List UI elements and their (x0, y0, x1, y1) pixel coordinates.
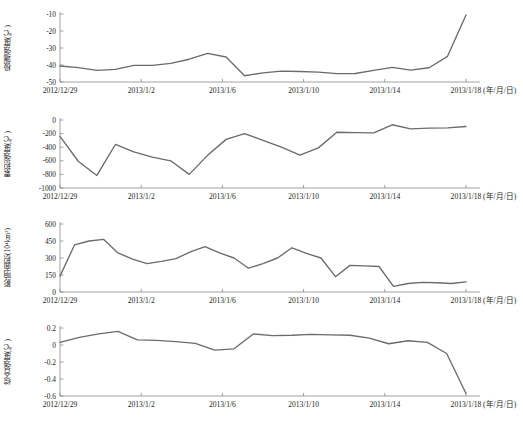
x-tick-label: 2013/1/2 (128, 86, 155, 95)
y-tick-label: 0 (52, 116, 56, 125)
y-tick-label: 600 (45, 220, 56, 229)
panel-comprehensive-intensity: 综合强度(℃) 0.20-0.2-0.4-0.62012/12/292013/1… (0, 318, 523, 424)
y-tick-label: -200 (42, 129, 56, 138)
x-tick-label: 2013/1/14 (369, 86, 400, 95)
multi-panel-timeseries-figure: 极端强度(℃) -10-20-30-40-502012/12/292013/1/… (0, 0, 523, 426)
x-tick-label: 2012/12/29 (43, 192, 78, 201)
x-tick-label: 2013/1/18 (451, 192, 482, 201)
x-tick-label: 2013/1/10 (288, 400, 319, 409)
x-tick-label: 2013/1/6 (209, 296, 236, 305)
panel-3-y-axis-label: 影响面积(10⁴km²) (4, 224, 12, 292)
x-tick-label: 2013/1/14 (369, 296, 400, 305)
data-series-line (60, 239, 466, 286)
y-tick-label: -0.4 (44, 375, 56, 384)
x-tick-label: 2013/1/2 (128, 192, 155, 201)
y-tick-label: -10 (46, 10, 56, 19)
x-tick-label: 2013/1/10 (288, 86, 319, 95)
x-tick-label: 2013/1/2 (128, 400, 155, 409)
panel-1-plot: -10-20-30-40-502012/12/292013/1/22013/1/… (0, 4, 523, 110)
panel-2-plot: 0-200-400-600-800-10002012/12/292013/1/2… (0, 110, 523, 216)
data-series-line (60, 15, 466, 76)
y-tick-label: -0.2 (44, 358, 56, 367)
x-tick-label: 2013/1/18 (451, 400, 482, 409)
panel-cumulative-intensity: 累积强度(℃) 0-200-400-600-800-10002012/12/29… (0, 110, 523, 216)
x-tick-label: 2012/12/29 (43, 296, 78, 305)
y-tick-label: -400 (42, 143, 56, 152)
y-tick-label: -800 (42, 170, 56, 179)
y-tick-label: 0.2 (47, 324, 57, 333)
x-tick-label: 2013/1/18 (451, 86, 482, 95)
y-tick-label: 300 (45, 254, 56, 263)
x-tick-label: 2013/1/10 (288, 192, 319, 201)
x-tick-label: 2013/1/6 (209, 192, 236, 201)
y-tick-label: 450 (45, 237, 56, 246)
y-tick-label: -40 (46, 61, 56, 70)
y-tick-label: 150 (45, 271, 56, 280)
panel-4-y-axis-label: 综合强度(℃) (4, 328, 12, 396)
y-tick-label: -600 (42, 156, 56, 165)
x-tick-label: 2012/12/29 (43, 86, 78, 95)
y-tick-label: -20 (46, 27, 56, 36)
panel-3-plot: 60045030015002012/12/292013/1/22013/1/62… (0, 214, 523, 320)
x-tick-label: 2012/12/29 (43, 400, 78, 409)
x-tick-label: 2013/1/6 (209, 86, 236, 95)
x-tick-label: 2013/1/18 (451, 296, 482, 305)
x-axis-unit-label: (年/月/日) (483, 85, 517, 95)
data-series-line (60, 125, 466, 176)
x-tick-label: 2013/1/14 (369, 400, 400, 409)
data-series-line (60, 331, 466, 393)
panel-affected-area: 影响面积(10⁴km²) 60045030015002012/12/292013… (0, 214, 523, 320)
y-tick-label: 0 (52, 341, 56, 350)
x-axis-unit-label: (年/月/日) (483, 191, 517, 201)
x-tick-label: 2013/1/14 (369, 192, 400, 201)
x-tick-label: 2013/1/2 (128, 296, 155, 305)
panel-2-y-axis-label: 累积强度(℃) (4, 120, 12, 188)
panel-1-y-axis-label: 极端强度(℃) (4, 14, 12, 82)
y-tick-label: -30 (46, 44, 56, 53)
x-axis-unit-label: (年/月/日) (483, 295, 517, 305)
panel-extreme-intensity: 极端强度(℃) -10-20-30-40-502012/12/292013/1/… (0, 4, 523, 110)
x-axis-unit-label: (年/月/日) (483, 399, 517, 409)
panel-4-plot: 0.20-0.2-0.4-0.62012/12/292013/1/22013/1… (0, 318, 523, 424)
x-tick-label: 2013/1/6 (209, 400, 236, 409)
x-tick-label: 2013/1/10 (288, 296, 319, 305)
